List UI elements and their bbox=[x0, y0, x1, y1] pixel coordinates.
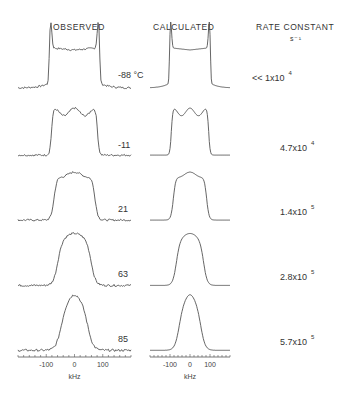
rate-constant-value: << 1x104 bbox=[252, 72, 292, 83]
spectrum-observed-85 bbox=[18, 295, 131, 351]
spectrum-calculated-21 bbox=[150, 172, 230, 220]
rate-exponent: 5 bbox=[311, 334, 314, 340]
spectrum-calculated--11 bbox=[150, 108, 230, 155]
temperature-label: 63 bbox=[118, 269, 128, 279]
temperature-label: -88 °C bbox=[118, 70, 144, 80]
x-axis-label: kHz bbox=[68, 373, 81, 380]
rate-exponent: 5 bbox=[311, 269, 314, 275]
spectrum-observed--11 bbox=[18, 107, 131, 156]
spectrum-observed-63 bbox=[18, 233, 131, 287]
x-tick-label: 100 bbox=[97, 361, 109, 368]
spectrum-calculated--88 bbox=[150, 22, 230, 88]
rate-constant-value: 5.7x105 bbox=[280, 336, 314, 347]
temperature-label: -11 bbox=[118, 140, 130, 150]
rate-exponent: 5 bbox=[311, 204, 314, 210]
x-tick-label: 0 bbox=[73, 361, 77, 368]
x-axis-label: kHz bbox=[184, 373, 197, 380]
rate-exponent: 4 bbox=[289, 70, 292, 76]
temperature-label: 21 bbox=[118, 204, 128, 214]
spectrum-observed-21 bbox=[18, 172, 131, 221]
spectrum-observed--88 bbox=[18, 23, 131, 89]
rate-constant-value: 1.4x105 bbox=[280, 206, 314, 217]
rate-constant-value: 2.8x105 bbox=[280, 271, 314, 282]
spectrum-calculated-63 bbox=[150, 234, 230, 286]
x-tick-label: 100 bbox=[204, 361, 216, 368]
x-tick-label: 0 bbox=[188, 361, 192, 368]
x-tick-label: -100 bbox=[163, 361, 177, 368]
rate-exponent: 4 bbox=[311, 140, 314, 146]
x-tick-label: -100 bbox=[39, 361, 53, 368]
temperature-label: 85 bbox=[118, 334, 128, 344]
spectrum-calculated-85 bbox=[150, 295, 230, 351]
rate-constant-value: 4.7x104 bbox=[280, 142, 314, 153]
